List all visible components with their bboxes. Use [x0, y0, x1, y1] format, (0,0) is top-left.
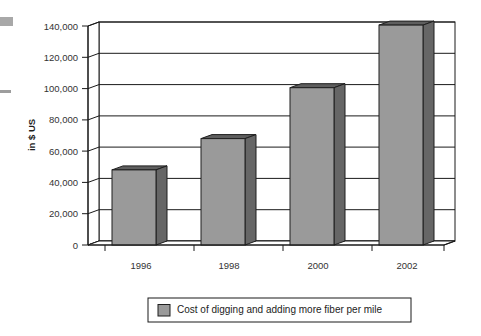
bar-1996 — [112, 166, 167, 245]
y-tick-label-40000: 40,000 — [49, 177, 78, 188]
bar-1996-side — [156, 166, 167, 245]
x-tick-marks — [105, 245, 444, 251]
chart-legend: Cost of digging and adding more fiber pe… — [148, 298, 411, 322]
legend-label-series-1: Cost of digging and adding more fiber pe… — [177, 304, 383, 315]
y-tick-label-100000: 100,000 — [44, 83, 78, 94]
y-tick-label-120000: 120,000 — [44, 52, 78, 63]
bar-2000-front — [290, 88, 334, 245]
y-tick-label-0: 0 — [73, 240, 78, 251]
x-tick-label-2000: 2000 — [307, 260, 328, 271]
bar-2000-side — [334, 84, 345, 245]
y-tick-label-80000: 80,000 — [49, 114, 78, 125]
y-tick-marks — [82, 26, 88, 245]
y-axis-tick-labels: 140,000 120,000 100,000 80,000 60,000 40… — [44, 21, 78, 251]
y-axis-title: in $ US — [26, 119, 37, 151]
bar-1998 — [201, 135, 256, 245]
y-tick-label-60000: 60,000 — [49, 146, 78, 157]
chart-canvas: 140,000 120,000 100,000 80,000 60,000 40… — [0, 0, 481, 336]
legend-swatch-series-1 — [158, 305, 170, 317]
bar-chart: 140,000 120,000 100,000 80,000 60,000 40… — [0, 0, 481, 336]
bar-1996-front — [112, 170, 156, 245]
bar-2002-side — [423, 21, 434, 245]
bar-1998-side — [245, 135, 256, 245]
y-tick-label-20000: 20,000 — [49, 208, 78, 219]
bar-1998-front — [201, 139, 245, 245]
x-tick-label-2002: 2002 — [396, 260, 417, 271]
bar-2002-front — [379, 25, 423, 245]
bar-2000 — [290, 84, 345, 245]
x-tick-label-1998: 1998 — [218, 260, 239, 271]
x-tick-label-1996: 1996 — [130, 260, 151, 271]
bar-2002 — [379, 21, 434, 245]
y-tick-label-140000: 140,000 — [44, 21, 78, 32]
x-axis-tick-labels: 1996 1998 2000 2002 — [130, 260, 417, 271]
